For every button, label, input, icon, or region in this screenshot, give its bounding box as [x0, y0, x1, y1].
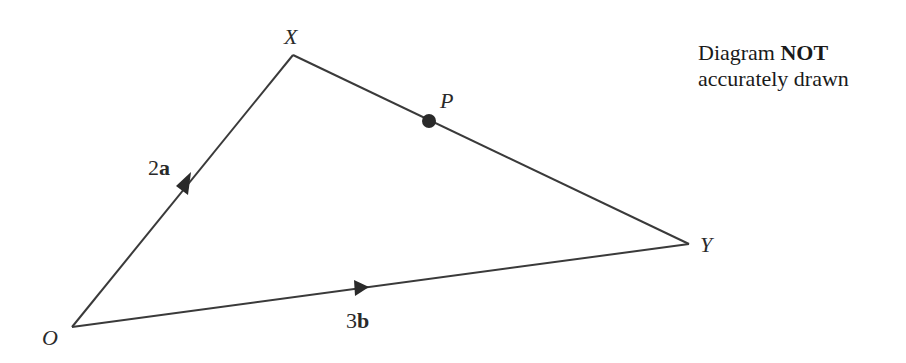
arrow-icon-OX: [176, 172, 191, 195]
vector-3b-coefficient: 3: [346, 308, 357, 333]
accuracy-note: Diagram NOT accurately drawn: [698, 40, 849, 92]
label-vector-2a: 2a: [148, 155, 170, 180]
arrow-icon-OY: [354, 280, 369, 296]
note-prefix: Diagram: [698, 40, 780, 65]
point-P: [422, 114, 436, 128]
label-vector-3b: 3b: [346, 308, 369, 333]
note-not-emphasis: NOT: [780, 40, 828, 65]
vector-2a-symbol: a: [159, 155, 170, 180]
accuracy-note-line1: Diagram NOT: [698, 40, 849, 66]
label-Y: Y: [700, 232, 715, 257]
edge-OX: [72, 55, 293, 327]
edge-OY: [72, 244, 689, 327]
vector-2a-coefficient: 2: [148, 155, 159, 180]
label-X: X: [283, 24, 299, 49]
vector-3b-symbol: b: [357, 308, 369, 333]
edge-XY: [293, 55, 689, 244]
label-P: P: [439, 88, 453, 113]
accuracy-note-line2: accurately drawn: [698, 66, 849, 92]
label-O: O: [42, 325, 58, 350]
